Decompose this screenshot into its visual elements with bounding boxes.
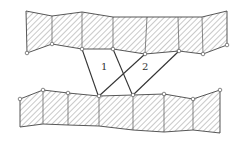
pin-joint-icon (225, 43, 229, 47)
linkage-bars (82, 49, 179, 96)
pin-joint-icon (201, 52, 205, 56)
pin-joint-icon (41, 88, 45, 92)
top-band-outline (26, 11, 227, 54)
bottom-hatched-band (20, 90, 220, 133)
pin-joint-icon (111, 47, 115, 51)
pin-joint-icon (97, 94, 101, 98)
pin-joint-icon (66, 91, 70, 95)
bar-label-2: 2 (142, 61, 148, 72)
pin-joint-icon (25, 51, 29, 55)
bar-1a (82, 49, 98, 95)
bar-labels: 12 (101, 61, 148, 72)
pin-joint-icon (162, 92, 166, 96)
top-hatched-band (26, 11, 227, 54)
pin-joint-icon (50, 42, 54, 46)
pin-joint-icon (80, 47, 84, 51)
pin-joint-icon (218, 88, 222, 92)
bar-1b (113, 49, 132, 94)
pin-joint-icon (177, 49, 181, 53)
pin-joint-icon (191, 97, 195, 101)
linkage-diagram: 12 (0, 0, 237, 145)
pin-joint-icon (131, 93, 135, 97)
bar-2b (133, 51, 179, 95)
bottom-band-outline (20, 90, 220, 133)
pin-joint-icon (143, 52, 147, 56)
bar-label-1: 1 (101, 61, 107, 72)
pin-joint-icon (18, 97, 22, 101)
